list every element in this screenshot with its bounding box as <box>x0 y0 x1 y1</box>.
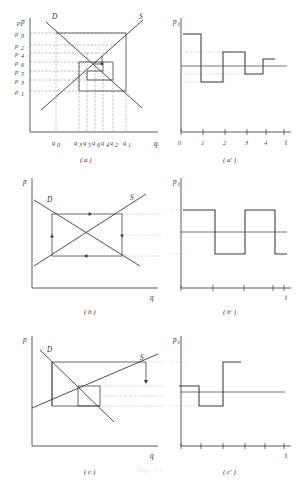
panel-a2-price-axis-label: p <box>172 18 177 26</box>
q-tick-q4-sub: 4 <box>106 142 109 148</box>
panel-a2-price-axis-sub: t <box>178 21 180 27</box>
panel-c2-price-axis-sub: t <box>178 339 180 345</box>
panel-b-supply-label: S <box>130 194 134 202</box>
panel-b2-price-axis-label: p <box>172 178 177 186</box>
panel-a-supply-label: S <box>139 13 143 21</box>
panel-a2-axes <box>181 18 291 132</box>
panel-a2-time-tick-labels: 0 1 2 3 4 <box>178 139 268 146</box>
price-tick-p1-sub: 1 <box>21 91 24 97</box>
panel-c-quantity-axis-label: q <box>150 452 154 460</box>
panel-a: p q p p0 p2 p4 p6 p5 p3 p1 q0 q3 q5 q6 <box>8 4 168 164</box>
panel-b-direction-arrows <box>50 212 124 258</box>
q-tick-q3-sub: 3 <box>78 142 82 148</box>
price-tick-p0-sub: 0 <box>21 33 24 39</box>
price-tick-p5-sub: 5 <box>21 71 24 77</box>
q-tick-q2: q <box>110 139 114 146</box>
q-tick-q3: q <box>74 139 78 146</box>
t-tick-4: 4 <box>264 139 268 146</box>
arrow-top <box>89 212 92 216</box>
panel-a2-time-axis-label: t <box>285 139 288 147</box>
price-tick-p2: p <box>14 42 18 49</box>
panel-c-direction-arrow <box>144 362 148 384</box>
q-tick-q1-sub: 1 <box>128 142 131 148</box>
panel-a-demand-label: D <box>51 13 58 21</box>
figure-caption: Fig. 2.1 <box>0 466 301 473</box>
price-tick-p: p <box>16 19 20 26</box>
t-tick-3: 3 <box>244 139 248 146</box>
panel-a-price-axis-label: p <box>20 18 25 26</box>
panel-c2-time-axis-label: t <box>285 452 288 460</box>
panel-b-price-axis-label: p <box>22 178 27 186</box>
panel-a-axes <box>30 18 158 132</box>
panel-b-caption: ( b ) <box>84 308 96 316</box>
panel-b-quantity-axis-label: q <box>150 294 154 302</box>
panel-c: p q D S ( c ) <box>18 324 168 482</box>
panel-b2-caption: ( b' ) <box>223 308 237 316</box>
price-tick-p4: p <box>14 50 18 57</box>
price-tick-p5: p <box>14 68 18 75</box>
t-tick-0: 0 <box>178 139 182 146</box>
panel-a-caption: ( a ) <box>80 156 92 164</box>
arrow-bottom <box>84 254 87 258</box>
panel-c2-level-guides <box>171 362 199 406</box>
panel-a-supply-curve <box>41 20 143 110</box>
t-tick-1: 1 <box>201 139 204 146</box>
panel-c-cobweb <box>52 362 146 406</box>
panel-a-price-ticks: p p0 p2 p4 p6 p5 p3 p1 <box>14 19 24 97</box>
price-tick-p0: p <box>14 30 18 37</box>
price-tick-p6: p <box>14 59 18 66</box>
panel-c2-price-path <box>179 362 241 406</box>
price-tick-p6-sub: 6 <box>21 62 24 68</box>
panel-a-cobweb <box>56 33 126 91</box>
panel-a2-level-guides <box>181 34 247 82</box>
price-tick-p3-sub: 3 <box>20 80 24 86</box>
q-tick-q4: q <box>101 139 105 146</box>
q-tick-q1: q <box>123 139 127 146</box>
panel-a2-price-path <box>183 34 275 82</box>
panel-c2-price-axis-label: p <box>172 336 177 344</box>
panel-a-demand-curve <box>46 22 142 108</box>
panel-b: p q D S ( b ) <box>18 166 168 318</box>
q-tick-q5-sub: 5 <box>88 142 91 148</box>
q-tick-q0-sub: 0 <box>57 142 60 148</box>
panel-c2: p t t ( c' ) <box>165 324 297 482</box>
panel-a2-caption: ( a' ) <box>223 156 237 164</box>
panel-a2: p t t 0 1 2 3 4 ( a' ) <box>165 4 297 164</box>
panel-b2-price-axis-sub: t <box>178 181 180 187</box>
panel-c-price-axis-label: p <box>22 336 27 344</box>
price-tick-p3: p <box>14 77 18 84</box>
t-tick-2: 2 <box>223 139 227 146</box>
price-tick-p1: p <box>14 88 18 95</box>
panel-c-level-guides <box>100 362 164 406</box>
panel-b-axes <box>32 178 158 288</box>
q-tick-q6-sub: 6 <box>97 142 100 148</box>
panel-a-quantity-axis-label: q <box>154 140 158 148</box>
panel-a-quantity-ticks: q0 q3 q5 q6 q4 q2 q1 <box>52 139 131 148</box>
price-tick-p2-sub: 2 <box>21 45 24 51</box>
arrow-left <box>50 234 54 237</box>
panel-a-quantity-guides <box>56 33 126 132</box>
q-tick-q2-sub: 2 <box>115 142 118 148</box>
panel-c-supply-label: S <box>140 354 144 362</box>
panel-c-demand-label: D <box>46 346 53 354</box>
q-tick-q0: q <box>52 139 56 146</box>
panel-b2-time-axis-label: t <box>285 294 288 302</box>
panel-b-demand-label: D <box>46 196 53 204</box>
panel-b2: p t t ( b' ) <box>165 166 297 318</box>
q-tick-q6: q <box>92 139 96 146</box>
panel-b-supply-curve <box>34 194 146 266</box>
panel-b-cobweb-rectangle <box>52 214 122 256</box>
panel-b-level-guides <box>122 214 162 256</box>
q-tick-q5: q <box>83 139 87 146</box>
price-tick-p4-sub: 4 <box>21 53 24 59</box>
panel-c2-axes <box>181 336 291 446</box>
